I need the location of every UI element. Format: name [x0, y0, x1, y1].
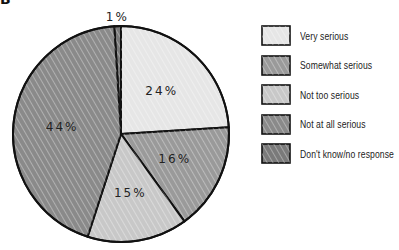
legend-label: Very serious	[300, 30, 348, 42]
legend-swatch-icon	[261, 84, 291, 105]
legend-item-somewhat-serious: Somewhat serious	[261, 51, 399, 81]
legend-swatch-icon	[261, 143, 291, 164]
slice-label: 15%	[114, 186, 147, 200]
legend-label: Don't know/no response	[300, 148, 394, 160]
legend: Very serious Somewhat serious Not too se…	[261, 21, 399, 169]
legend-label: Not too serious	[300, 89, 359, 101]
pie-chart: 1%24%16%15%44%	[0, 0, 245, 250]
legend-swatch-icon	[261, 55, 291, 76]
slice-label: 44%	[46, 120, 79, 134]
legend-swatch-icon	[261, 114, 291, 135]
pie-slices	[13, 26, 229, 242]
slice-label: 1%	[106, 10, 129, 24]
legend-item-very-serious: Very serious	[261, 21, 399, 51]
slice-hatch	[121, 26, 229, 134]
legend-item-not-too-serious: Not too serious	[261, 80, 399, 110]
legend-item-not-at-all-serious: Not at all serious	[261, 110, 399, 140]
legend-label: Not at all serious	[300, 118, 366, 130]
legend-label: Somewhat serious	[300, 59, 372, 71]
slice-label: 16%	[158, 152, 191, 166]
legend-item-dont-know: Don't know/no response	[261, 139, 399, 169]
legend-swatch-icon	[261, 25, 291, 46]
slice-label: 24%	[145, 84, 178, 98]
